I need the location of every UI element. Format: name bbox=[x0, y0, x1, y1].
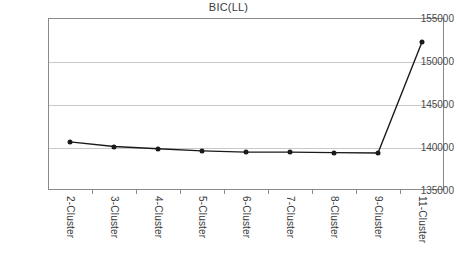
y-tick-label-155000: 155000 bbox=[411, 13, 457, 24]
gridline-150000 bbox=[49, 62, 443, 63]
x-tick-label-8-cluster: 8-Cluster bbox=[329, 196, 340, 238]
data-point-9-cluster bbox=[376, 151, 381, 156]
x-tick-1 bbox=[92, 190, 93, 194]
y-tick-label-135000: 135000 bbox=[411, 185, 457, 196]
x-tick-label-5-cluster: 5-Cluster bbox=[197, 196, 208, 238]
x-tick-label-2-cluster: 2-Cluster bbox=[65, 196, 76, 238]
y-tick-label-145000: 145000 bbox=[411, 99, 457, 110]
data-point-6-cluster bbox=[244, 150, 249, 155]
data-point-5-cluster bbox=[200, 148, 205, 153]
data-point-3-cluster bbox=[112, 144, 117, 149]
bic-line-chart: BIC(LL) 135000140000145000150000155000 2… bbox=[0, 0, 457, 262]
data-point-4-cluster bbox=[156, 146, 161, 151]
x-tick-5 bbox=[268, 190, 269, 194]
data-point-11-cluster bbox=[420, 40, 425, 45]
y-tick-label-150000: 150000 bbox=[411, 56, 457, 67]
plot-area bbox=[48, 18, 444, 190]
x-tick-label-7-cluster: 7-Cluster bbox=[285, 196, 296, 238]
x-tick-3 bbox=[180, 190, 181, 194]
data-point-7-cluster bbox=[288, 150, 293, 155]
data-point-8-cluster bbox=[332, 150, 337, 155]
x-tick-6 bbox=[312, 190, 313, 194]
chart-title: BIC(LL) bbox=[0, 1, 457, 13]
x-tick-label-6-cluster: 6-Cluster bbox=[241, 196, 252, 238]
x-tick-4 bbox=[224, 190, 225, 194]
x-tick-2 bbox=[136, 190, 137, 194]
x-tick-label-4-cluster: 4-Cluster bbox=[153, 196, 164, 238]
x-tick-label-11-cluster: 11-Cluster bbox=[417, 196, 428, 243]
data-point-2-cluster bbox=[68, 139, 73, 144]
x-tick-label-3-cluster: 3-Cluster bbox=[109, 196, 120, 238]
x-tick-8 bbox=[400, 190, 401, 194]
y-tick-label-140000: 140000 bbox=[411, 142, 457, 153]
x-tick-label-9-cluster: 9-Cluster bbox=[373, 196, 384, 238]
gridline-145000 bbox=[49, 105, 443, 106]
x-tick-7 bbox=[356, 190, 357, 194]
